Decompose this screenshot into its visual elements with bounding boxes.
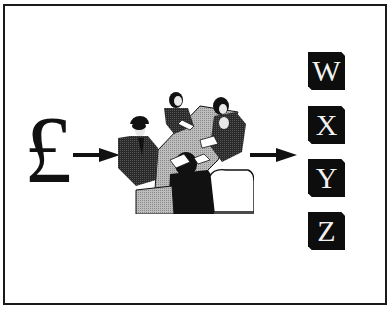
meeting-icon: [118, 90, 254, 214]
pound-sign: £: [22, 100, 74, 200]
output-box-w: W: [308, 52, 345, 90]
arrow-right-icon: [250, 147, 298, 163]
output-box-x: X: [308, 106, 345, 144]
output-box-y: Y: [308, 159, 345, 197]
arrow-right-icon: [73, 147, 121, 163]
output-box-z: Z: [308, 212, 345, 250]
